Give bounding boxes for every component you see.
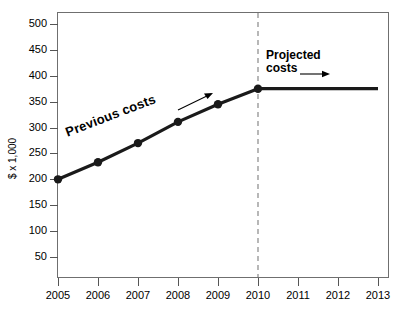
- y-tick-label: 500: [7, 18, 47, 29]
- y-tick-label: 50: [7, 251, 47, 262]
- y-tick-label: 300: [7, 122, 47, 133]
- y-tick-mark: [50, 24, 58, 25]
- y-tick-mark: [50, 76, 58, 77]
- x-tick-mark: [98, 278, 99, 286]
- y-tick-label: 450: [7, 44, 47, 55]
- y-tick-mark: [50, 179, 58, 180]
- y-tick-mark: [50, 231, 58, 232]
- x-tick-label: 2005: [38, 289, 78, 301]
- y-tick-mark: [50, 257, 58, 258]
- x-tick-mark: [138, 278, 139, 286]
- x-tick-mark: [378, 278, 379, 286]
- y-tick-label: 400: [7, 70, 47, 81]
- x-tick-label: 2010: [238, 289, 278, 301]
- x-tick-label: 2009: [198, 289, 238, 301]
- x-tick-mark: [298, 278, 299, 286]
- x-tick-label: 2013: [358, 289, 398, 301]
- x-tick-label: 2012: [318, 289, 358, 301]
- x-tick-mark: [218, 278, 219, 286]
- y-tick-mark: [50, 102, 58, 103]
- x-tick-mark: [58, 278, 59, 286]
- y-tick-label: 350: [7, 96, 47, 107]
- x-tick-mark: [178, 278, 179, 286]
- x-tick-label: 2007: [118, 289, 158, 301]
- y-tick-mark: [50, 205, 58, 206]
- projected-costs-label-line2: costs: [266, 62, 321, 75]
- y-tick-mark: [50, 128, 58, 129]
- projected-costs-label: Projected costs: [266, 49, 321, 75]
- x-tick-mark: [258, 278, 259, 286]
- y-tick-label: 150: [7, 199, 47, 210]
- x-tick-label: 2006: [78, 289, 118, 301]
- y-tick-mark: [50, 50, 58, 51]
- y-tick-label: 200: [7, 173, 47, 184]
- y-tick-label: 100: [7, 225, 47, 236]
- x-tick-mark: [338, 278, 339, 286]
- x-tick-label: 2008: [158, 289, 198, 301]
- x-tick-label: 2011: [278, 289, 318, 301]
- chart-screenshot: $ x 1,000 50 100 150 200 250 300 350 400…: [0, 0, 402, 309]
- plot-frame: [57, 12, 389, 278]
- y-tick-label: 250: [7, 147, 47, 158]
- y-tick-mark: [50, 153, 58, 154]
